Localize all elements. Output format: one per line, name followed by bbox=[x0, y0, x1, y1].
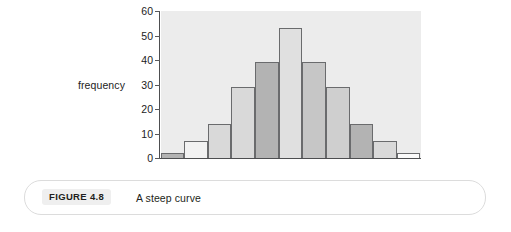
histogram-bar bbox=[397, 153, 421, 158]
histogram-bar bbox=[184, 141, 208, 158]
y-tick-label-10: 10 bbox=[141, 129, 153, 139]
histogram-bar bbox=[231, 87, 255, 158]
histogram-bar bbox=[373, 141, 397, 158]
histogram-bar bbox=[255, 62, 279, 158]
y-axis-tick-labels: 0102030405060 bbox=[131, 0, 153, 170]
y-tick-mark-40 bbox=[155, 60, 160, 61]
y-tick-label-40: 40 bbox=[141, 55, 153, 65]
figure-chart-area: frequency 0102030405060 bbox=[0, 0, 511, 170]
y-tick-mark-20 bbox=[155, 109, 160, 110]
y-tick-mark-0 bbox=[155, 158, 160, 159]
y-axis-title: frequency bbox=[78, 79, 125, 91]
y-tick-mark-50 bbox=[155, 36, 160, 37]
figure-caption-box: FIGURE 4.8 A steep curve bbox=[24, 180, 486, 215]
y-tick-label-30: 30 bbox=[141, 80, 153, 90]
y-tick-label-50: 50 bbox=[141, 31, 153, 41]
y-tick-mark-60 bbox=[155, 11, 160, 12]
histogram-bar bbox=[326, 87, 350, 158]
histogram-bar bbox=[208, 124, 232, 158]
y-tick-mark-10 bbox=[155, 134, 160, 135]
histogram-bar bbox=[161, 153, 185, 158]
y-tick-label-20: 20 bbox=[141, 104, 153, 114]
y-tick-label-0: 0 bbox=[147, 153, 153, 163]
figure-number-badge: FIGURE 4.8 bbox=[42, 189, 111, 205]
histogram-bar bbox=[279, 28, 303, 158]
figure-caption-text: A steep curve bbox=[136, 192, 201, 204]
histogram-bar bbox=[302, 62, 326, 158]
histogram-bars bbox=[161, 11, 421, 158]
histogram-bar bbox=[350, 124, 374, 158]
y-tick-mark-30 bbox=[155, 85, 160, 86]
y-tick-label-60: 60 bbox=[141, 6, 153, 16]
